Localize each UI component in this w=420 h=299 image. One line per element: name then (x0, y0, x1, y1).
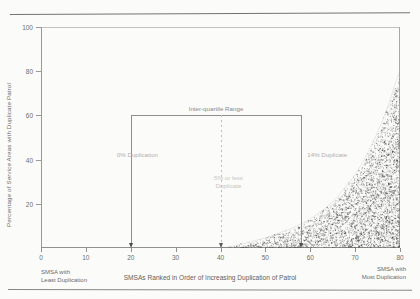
x-tick-mark (400, 248, 401, 252)
stipple-dots (223, 79, 400, 248)
label-median-line2: Duplicate (214, 182, 243, 190)
x-tick-mark (176, 248, 177, 252)
x-axis-title: SMSAs Ranked in Order of Increasing Dupl… (124, 274, 297, 281)
label-median: 5% or lessDuplicate (214, 174, 243, 190)
note-most-duplication: SMSA with Most Duplication (362, 265, 406, 281)
y-tick-label: 80 (26, 68, 33, 75)
iqr-bracket-arm-left (131, 115, 132, 244)
y-tick-mark (36, 27, 41, 28)
x-tick-label: 20 (127, 254, 134, 261)
x-tick-mark (221, 248, 222, 252)
x-tick-mark (41, 248, 42, 252)
chart-plot-area: 10080604020 01020304050607080 Inter-quar… (41, 27, 400, 248)
x-tick-label: 50 (262, 254, 269, 261)
label-lower-quartile: 0% Duplication (117, 151, 158, 158)
y-tick-mark (36, 115, 41, 116)
label-upper-quartile: 14% Duplicate (307, 151, 347, 158)
y-tick-label: 20 (26, 200, 33, 207)
iqr-bracket-top (131, 115, 302, 116)
x-tick-label: 60 (307, 254, 314, 261)
y-tick-label: 100 (22, 24, 33, 31)
x-tick-label: 80 (396, 254, 403, 261)
x-tick-label: 30 (172, 254, 179, 261)
x-tick-mark (131, 248, 132, 252)
note-least-duplication-line1: SMSA with (41, 268, 87, 276)
iqr-bracket-arm-right (301, 115, 302, 244)
page-rule-top (10, 12, 410, 15)
x-tick-label: 70 (352, 254, 359, 261)
x-tick-label: 40 (217, 254, 224, 261)
note-most-duplication-line1: SMSA with (362, 265, 406, 273)
label-median-line1: 5% or less (214, 174, 243, 182)
label-inter-quartile-range: Inter-quartile Range (189, 105, 244, 112)
y-axis-title: Percentage of Service Areas with Duplica… (5, 84, 12, 228)
x-tick-label: 0 (39, 254, 43, 261)
y-tick-mark (36, 160, 41, 161)
x-tick-mark (310, 248, 311, 252)
note-least-duplication-line2: Least Duplication (41, 276, 87, 284)
iqr-arrow-upper-quartile (299, 243, 303, 248)
y-tick-mark (36, 71, 41, 72)
y-tick-label: 40 (26, 156, 33, 163)
iqr-arrow-lower-quartile (129, 243, 133, 248)
x-tick-mark (355, 248, 356, 252)
y-tick-mark (36, 204, 41, 205)
page-rule-bottom (8, 289, 412, 291)
y-tick-label: 60 (26, 112, 33, 119)
x-tick-mark (86, 248, 87, 252)
median-arrow (219, 243, 223, 248)
note-most-duplication-line2: Most Duplication (362, 273, 406, 281)
scanned-page: 10080604020 01020304050607080 Inter-quar… (0, 0, 420, 299)
x-tick-label: 10 (82, 254, 89, 261)
note-least-duplication: SMSA with Least Duplication (41, 268, 87, 284)
x-tick-mark (265, 248, 266, 252)
